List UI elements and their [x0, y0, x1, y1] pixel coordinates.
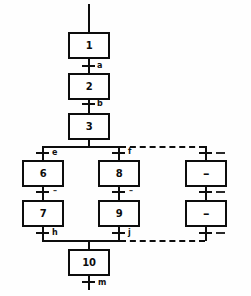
- step-3-box[interactable]: 3: [68, 113, 110, 140]
- divergence-bar-dashed: [120, 146, 205, 148]
- step-7-label: 7: [40, 209, 47, 219]
- step-9-box[interactable]: 9: [98, 200, 140, 227]
- transition-branch3-bottom-label: [216, 232, 225, 234]
- transition-branch3-top-label: [216, 152, 225, 154]
- link-step8-transition-i: [118, 187, 120, 200]
- step-10-box[interactable]: 10: [68, 249, 110, 276]
- step-placeholder-upper-label: –: [203, 167, 209, 180]
- link-branch3-bottom: [205, 227, 207, 241]
- convergence-bar-dashed: [120, 240, 205, 242]
- sfc-diagram-canvas: 1 a 2 b 3 e 6 – 7 h f 8 –: [0, 0, 251, 296]
- step-10-label: 10: [82, 258, 95, 268]
- step-9-label: 9: [116, 209, 123, 219]
- step-7-box[interactable]: 7: [22, 200, 64, 227]
- transition-m-label: m: [98, 279, 106, 287]
- transition-b-bar[interactable]: [82, 103, 95, 105]
- step-6-label: 6: [40, 169, 47, 179]
- step-placeholder-upper-box[interactable]: –: [185, 160, 227, 187]
- transition-m-bar[interactable]: [82, 281, 95, 283]
- transition-e-label: e: [52, 149, 57, 157]
- step-6-box[interactable]: 6: [22, 160, 64, 187]
- step-1-label: 1: [86, 41, 93, 51]
- transition-branch3-top-bar[interactable]: [199, 152, 212, 154]
- step-8-box[interactable]: 8: [98, 160, 140, 187]
- link-step2-transition-b: [88, 100, 90, 113]
- transition-j-label: j: [128, 229, 131, 237]
- link-step9-transition-j: [118, 227, 120, 241]
- transition-j-bar[interactable]: [112, 232, 125, 234]
- transition-branch3-bottom-bar[interactable]: [199, 232, 212, 234]
- transition-g-label: –: [53, 187, 57, 195]
- transition-a-label: a: [97, 62, 102, 70]
- link-step6-transition-g: [42, 187, 44, 200]
- transition-f-label: f: [128, 148, 131, 156]
- transition-branch3-mid-bar[interactable]: [199, 191, 212, 193]
- link-branch3-mid: [205, 187, 207, 200]
- step-2-label: 2: [86, 82, 93, 92]
- step-placeholder-lower-label: –: [203, 207, 209, 220]
- step-placeholder-lower-box[interactable]: –: [185, 200, 227, 227]
- transition-branch3-mid-label: [216, 191, 225, 193]
- link-step7-transition-h: [42, 227, 44, 241]
- link-incoming: [88, 4, 90, 32]
- convergence-bar-solid: [42, 240, 120, 242]
- step-1-box[interactable]: 1: [68, 32, 110, 59]
- step-8-label: 8: [116, 169, 123, 179]
- transition-i-label: –: [129, 187, 133, 195]
- step-2-box[interactable]: 2: [68, 73, 110, 100]
- transition-e-bar[interactable]: [36, 152, 49, 154]
- transition-f-bar[interactable]: [112, 152, 125, 154]
- transition-i-bar[interactable]: [112, 191, 125, 193]
- transition-g-bar[interactable]: [36, 191, 49, 193]
- transition-b-label: b: [97, 100, 103, 108]
- transition-h-bar[interactable]: [36, 232, 49, 234]
- transition-h-label: h: [52, 229, 58, 237]
- step-3-label: 3: [86, 122, 93, 132]
- link-step10-transition-m: [88, 276, 90, 290]
